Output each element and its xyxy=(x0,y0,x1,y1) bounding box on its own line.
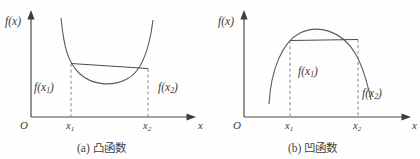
value-label-fx1: f(x1) xyxy=(298,66,318,79)
x-axis-label: x xyxy=(412,120,417,131)
convex-curve xyxy=(61,18,153,84)
panel-concave: f(x) x O x1 x2 f(x1) f(x2) (b) 凹函数 xyxy=(210,0,420,159)
y-axis-label: f(x) xyxy=(5,16,21,28)
value-label-fx1: f(x1) xyxy=(34,82,54,95)
value-label-fx2: f(x2) xyxy=(362,88,382,101)
x-axis-concave xyxy=(244,113,411,120)
value-label-fx2: f(x2) xyxy=(158,82,178,95)
panel-convex: f(x) x O x1 x2 f(x1) f(x2) (a) 凸函数 xyxy=(0,0,210,159)
x-axis-convex xyxy=(31,113,196,120)
panel-caption-b: (b) 凹函数 xyxy=(288,139,337,155)
concave-chord xyxy=(290,40,358,41)
x-axis-label: x xyxy=(198,120,203,131)
tick-label-x2: x2 xyxy=(353,121,361,133)
y-axis-convex xyxy=(27,10,34,117)
y-axis-concave xyxy=(240,10,247,117)
convex-chord xyxy=(71,64,148,69)
origin-label: O xyxy=(20,120,28,131)
concave-plot-svg xyxy=(210,0,420,159)
tick-label-x1: x1 xyxy=(285,121,293,133)
tick-label-x1: x1 xyxy=(66,121,74,133)
y-axis-label: f(x) xyxy=(218,16,234,28)
tick-label-x2: x2 xyxy=(143,121,151,133)
figure-root: f(x) x O x1 x2 f(x1) f(x2) (a) 凸函数 xyxy=(0,0,420,159)
convex-plot-svg xyxy=(0,0,210,159)
origin-label: O xyxy=(233,120,241,131)
panel-caption-a: (a) 凸函数 xyxy=(77,139,126,155)
